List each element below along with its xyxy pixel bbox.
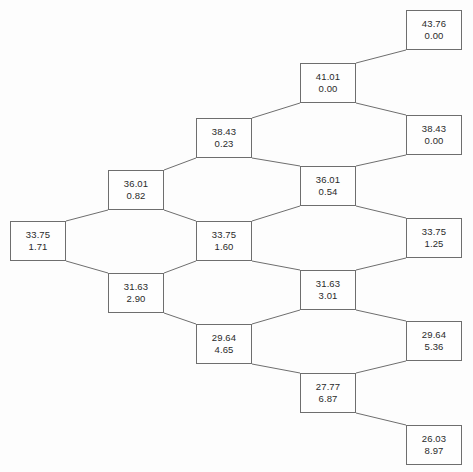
tree-edge (164, 158, 196, 170)
node-option-value: 1.60 (215, 241, 234, 253)
tree-edge (356, 258, 406, 270)
tree-node: 29.644.65 (196, 324, 252, 364)
tree-edge (252, 310, 300, 324)
tree-edge (164, 210, 196, 221)
tree-edge (252, 261, 300, 270)
node-option-value: 3.01 (319, 290, 338, 302)
node-asset-price: 33.75 (26, 229, 50, 241)
node-asset-price: 31.63 (124, 281, 148, 293)
node-option-value: 5.36 (425, 341, 444, 353)
tree-edge (356, 310, 406, 321)
node-option-value: 2.90 (127, 293, 146, 305)
node-asset-price: 31.63 (316, 278, 340, 290)
node-asset-price: 36.01 (124, 178, 148, 190)
tree-edge (356, 50, 406, 63)
tree-node: 36.010.54 (300, 166, 356, 206)
tree-node: 31.633.01 (300, 270, 356, 310)
tree-edge (66, 210, 108, 221)
tree-edge (356, 206, 406, 218)
node-option-value: 0.82 (127, 190, 146, 202)
tree-edge (164, 261, 196, 273)
node-asset-price: 36.01 (316, 174, 340, 186)
node-option-value: 8.97 (425, 445, 444, 457)
tree-edge (356, 103, 406, 115)
tree-node: 36.010.82 (108, 170, 164, 210)
tree-node: 31.632.90 (108, 273, 164, 313)
node-asset-price: 38.43 (212, 126, 236, 138)
node-option-value: 0.00 (319, 83, 338, 95)
node-option-value: 1.71 (29, 241, 48, 253)
tree-node: 33.751.25 (406, 218, 462, 258)
node-asset-price: 29.64 (422, 329, 446, 341)
node-asset-price: 41.01 (316, 71, 340, 83)
node-option-value: 1.25 (425, 238, 444, 250)
tree-node: 27.776.87 (300, 373, 356, 413)
tree-node: 38.430.00 (406, 115, 462, 155)
tree-node: 33.751.71 (10, 221, 66, 261)
node-asset-price: 43.76 (422, 18, 446, 30)
node-option-value: 0.00 (425, 135, 444, 147)
tree-edge (66, 261, 108, 273)
tree-node: 26.038.97 (406, 425, 462, 465)
tree-edge (356, 413, 406, 425)
tree-edge (356, 155, 406, 166)
node-asset-price: 33.75 (422, 226, 446, 238)
binomial-tree-diagram: 33.751.7136.010.8231.632.9038.430.2333.7… (0, 0, 473, 472)
node-option-value: 0.00 (425, 30, 444, 42)
tree-node: 33.751.60 (196, 221, 252, 261)
tree-edge (252, 158, 300, 166)
node-asset-price: 29.64 (212, 332, 236, 344)
tree-node: 43.760.00 (406, 10, 462, 50)
node-option-value: 0.54 (319, 186, 338, 198)
tree-edge (164, 313, 196, 324)
tree-edge (252, 103, 300, 118)
node-option-value: 4.65 (215, 344, 234, 356)
node-asset-price: 27.77 (316, 381, 340, 393)
tree-edge (356, 361, 406, 373)
tree-edge (252, 206, 300, 221)
tree-node: 38.430.23 (196, 118, 252, 158)
node-asset-price: 33.75 (212, 229, 236, 241)
tree-edge (252, 364, 300, 373)
node-option-value: 0.23 (215, 138, 234, 150)
node-asset-price: 38.43 (422, 123, 446, 135)
node-asset-price: 26.03 (422, 433, 446, 445)
tree-node: 29.645.36 (406, 321, 462, 361)
tree-node: 41.010.00 (300, 63, 356, 103)
node-option-value: 6.87 (319, 393, 338, 405)
